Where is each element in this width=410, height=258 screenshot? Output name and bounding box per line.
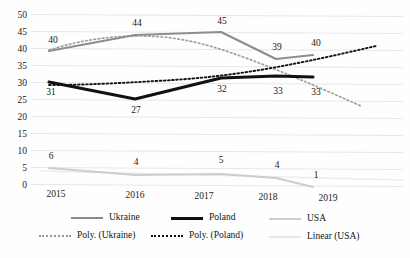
legend-item-ukraine[interactable]: Ukraine [71,211,140,225]
y-tick-label: 0 [22,180,27,190]
data-label: 33 [273,86,283,96]
x-tick-label: 2018 [259,192,278,202]
x-tick-label: 2017 [195,191,214,201]
legend-label: Ukraine [109,213,140,223]
data-label: 40 [48,35,58,45]
legend-item-usa[interactable]: USA [269,212,326,226]
series-line-usa [49,168,313,187]
legend-item-poly-ukraine[interactable]: Poly. (Ukraine) [39,229,135,243]
legend-item-poly-poland[interactable]: Poly. (Poland) [151,229,243,243]
legend-label: USA [307,214,326,224]
legend-item-poland[interactable]: Poland [171,211,235,225]
data-label: 27 [131,105,141,115]
legend-key-poly-ukraine-icon [39,235,71,237]
y-tick-label: 35 [18,61,28,71]
data-label: 45 [217,16,227,26]
x-tick-label: 2015 [47,189,66,199]
data-label: 33 [311,87,321,97]
y-tick-label: 15 [18,129,28,139]
data-label: 44 [132,18,142,28]
data-label: 4 [134,157,139,167]
data-label: 6 [49,151,54,161]
x-tick-label: 2016 [126,190,145,200]
legend-label: Poly. (Ukraine) [77,231,135,241]
legend-label: Poly. (Poland) [189,231,243,241]
legend-key-poland-icon [171,217,203,220]
x-tick-label: 2019 [319,193,338,203]
y-tick-label: 10 [18,146,28,156]
chart-plot-svg [31,14,403,192]
data-label: 1 [314,170,319,180]
data-label: 40 [311,38,321,48]
plot-area: 40 44 45 39 40 31 27 32 33 33 6 4 5 4 1 [31,14,403,188]
legend-label: Linear (USA) [307,232,360,242]
chart-container: 50 45 40 35 30 25 20 15 10 5 0 [0,0,410,258]
y-tick-label: 25 [18,95,28,105]
y-tick-label: 5 [22,163,27,173]
data-label: 32 [217,84,227,94]
chart-legend: Ukraine Poland USA Poly. (Ukraine) Poly.… [31,211,406,257]
y-axis: 50 45 40 35 30 25 20 15 10 5 0 [0,0,31,200]
data-label: 39 [272,42,282,52]
x-axis: 2015 2016 2017 2018 2019 [31,189,403,207]
legend-label: Poland [209,213,235,223]
y-tick-label: 20 [18,112,28,122]
y-tick-label: 45 [18,27,28,37]
y-tick-label: 30 [18,78,28,88]
data-label: 31 [46,87,56,97]
legend-key-poly-poland-icon [151,235,183,237]
legend-key-ukraine-icon [71,217,103,219]
legend-key-linear-usa-icon [269,236,301,238]
y-tick-label: 50 [18,10,28,20]
data-label: 4 [275,160,280,170]
legend-key-usa-icon [269,218,301,220]
legend-item-linear-usa[interactable]: Linear (USA) [269,230,360,244]
y-tick-label: 40 [18,44,28,54]
data-label: 5 [219,155,224,165]
